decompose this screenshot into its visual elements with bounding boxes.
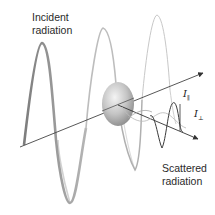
particle-sphere bbox=[102, 82, 134, 126]
scattered-radiation-label: Scattered radiation bbox=[162, 162, 207, 188]
scattered-label-line1: Scattered bbox=[162, 162, 207, 175]
incident-radiation-label: Incident radiation bbox=[32, 11, 72, 37]
scattering-diagram: Incident radiation Scattered radiation I… bbox=[0, 0, 215, 215]
i-perp-subscript: ⊥ bbox=[198, 114, 204, 121]
i-parallel-subscript: ∥ bbox=[187, 94, 190, 101]
scattered-wave-parallel bbox=[150, 103, 183, 148]
incident-label-line2: radiation bbox=[32, 24, 72, 37]
i-perp-label: I⊥ bbox=[194, 108, 204, 121]
incident-wave-front bbox=[24, 43, 176, 203]
scattered-label-line2: radiation bbox=[162, 175, 207, 188]
i-parallel-label: I∥ bbox=[183, 88, 190, 101]
incident-label-line1: Incident bbox=[32, 11, 72, 24]
